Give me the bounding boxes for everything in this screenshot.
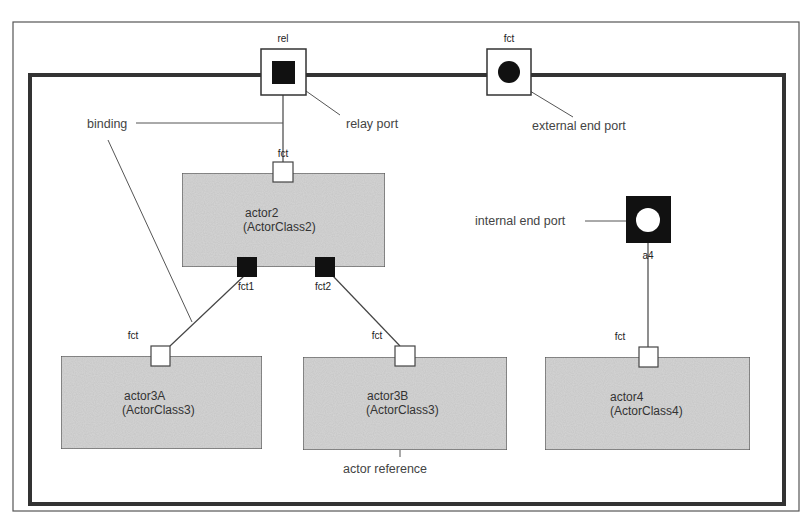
relay-port-rel[interactable]: rel bbox=[261, 33, 306, 95]
actor2-class: (ActorClass2) bbox=[243, 220, 316, 234]
annotation-actor-reference: actor reference bbox=[343, 462, 427, 476]
external-end-port-label: fct bbox=[504, 33, 515, 44]
actor2-port-fct2-label: fct2 bbox=[315, 281, 332, 292]
actor3A-port-fct-label: fct bbox=[128, 330, 139, 341]
annotation-internal-end-port: internal end port bbox=[475, 214, 566, 228]
actor3A-class: (ActorClass3) bbox=[122, 403, 195, 417]
external-end-port-glyph-icon bbox=[498, 61, 520, 83]
external-end-port-fct[interactable]: fct bbox=[487, 33, 531, 95]
actor4-port-fct-label: fct bbox=[615, 331, 626, 342]
actor3B-port-fct-label: fct bbox=[372, 330, 383, 341]
internal-end-port-glyph-icon bbox=[636, 208, 660, 232]
actor2-port-fct[interactable] bbox=[273, 162, 293, 182]
relay-port-glyph-icon bbox=[272, 61, 295, 84]
actor2-port-fct1[interactable] bbox=[237, 257, 257, 277]
actor2-name: actor2 bbox=[245, 206, 279, 220]
actor3B-class: (ActorClass3) bbox=[366, 403, 439, 417]
actor3A-name: actor3A bbox=[124, 389, 165, 403]
annotation-binding: binding bbox=[87, 117, 127, 131]
actor2-port-fct2[interactable] bbox=[315, 257, 335, 277]
actor3A-port-fct[interactable] bbox=[151, 346, 170, 366]
actor4-class: (ActorClass4) bbox=[610, 404, 683, 418]
actor3B-name: actor3B bbox=[367, 389, 408, 403]
actor4-port-fct[interactable] bbox=[639, 347, 658, 367]
annotation-relay-port: relay port bbox=[346, 117, 399, 131]
relay-port-label: rel bbox=[277, 33, 288, 44]
actor4-name: actor4 bbox=[610, 390, 644, 404]
actor2-port-fct1-label: fct1 bbox=[238, 281, 255, 292]
actor3B-port-fct[interactable] bbox=[395, 346, 415, 366]
annotation-external-end-port: external end port bbox=[532, 119, 626, 133]
actor2-port-fct-label: fct bbox=[278, 148, 289, 159]
internal-end-port-label: a4 bbox=[642, 250, 654, 261]
actor-structure-diagram: rel fct a4 actor2 (ActorClass2) fct fct1… bbox=[0, 0, 803, 516]
